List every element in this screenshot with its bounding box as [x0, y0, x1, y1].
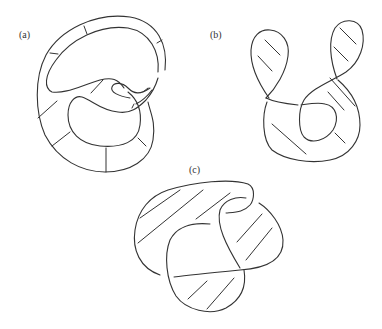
panel-a-band-inner-edge: [46, 27, 158, 92]
panel-b-hatch: [258, 56, 272, 71]
panel-b-hatch: [328, 92, 344, 110]
panel-b-left-strand: [266, 98, 298, 105]
panel-b-right-lobe: [300, 21, 364, 141]
panel-c-inner-arc: [219, 198, 246, 269]
knot-diagrams: [0, 0, 382, 329]
panel-a-stripe: [84, 26, 87, 34]
panel-a-stripe: [132, 104, 134, 108]
panel-a-stripe: [157, 40, 162, 43]
panel-c-hatch: [138, 190, 203, 243]
panel-b-hatch: [340, 28, 356, 44]
panel-c-right-lobe: [174, 203, 283, 277]
panel-a-stripe: [138, 138, 146, 146]
panel-b-diagram: [251, 21, 363, 162]
panel-c-diagram: [134, 181, 283, 311]
panel-a-outer-boundary: [37, 16, 165, 172]
panel-b-hatch: [335, 133, 345, 143]
panel-b-hatch: [272, 124, 306, 154]
panel-a-stripe: [50, 53, 58, 54]
panel-b-hatch: [265, 40, 280, 55]
panel-c-hatch: [196, 193, 230, 219]
panel-c-bottom-lobe: [167, 224, 245, 312]
panel-c-hatch: [188, 281, 207, 299]
panel-a-inner-lobe: [68, 78, 158, 146]
panel-a-diagram: [37, 16, 165, 172]
panel-b-hatch: [330, 78, 355, 106]
panel-b-left-lobe: [251, 30, 288, 98]
panel-c-hatch: [237, 214, 262, 242]
panel-c-hatch: [246, 228, 272, 260]
panel-a-stripe: [38, 101, 57, 118]
panel-a-stripe: [52, 132, 70, 146]
panel-c-hatch: [207, 278, 234, 309]
panel-b-hatch: [334, 47, 348, 61]
